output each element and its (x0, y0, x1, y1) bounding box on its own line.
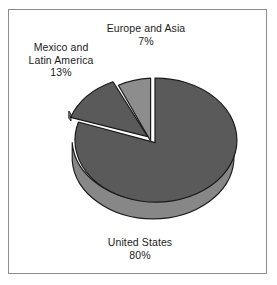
slice-label-united-states: United States 80% (80, 236, 200, 261)
slice-label-united-states-percent: 80% (80, 249, 200, 262)
slice-label-mexico-line1: Mexico and (9, 41, 113, 54)
slice-label-europe-asia-name: Europe and Asia (86, 22, 206, 35)
slice-label-mexico-line2: Latin America (9, 54, 113, 67)
pie-chart-figure: Europe and Asia 7% Mexico and Latin Amer… (0, 0, 277, 285)
slice-label-mexico-latin-america: Mexico and Latin America 13% (9, 41, 113, 79)
slice-label-united-states-name: United States (80, 236, 200, 249)
slice-label-mexico-percent: 13% (9, 66, 113, 79)
